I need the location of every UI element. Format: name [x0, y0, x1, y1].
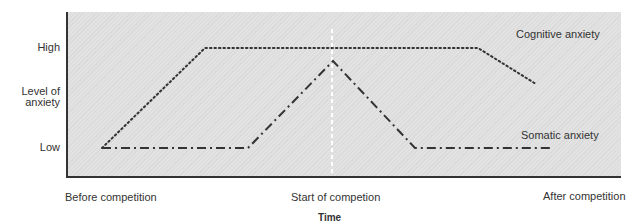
legend-cognitive-anxiety: Cognitive anxiety	[516, 28, 600, 40]
y-tick-high: High	[0, 41, 60, 53]
y-tick-low: Low	[0, 141, 60, 153]
x-tick-before: Before competition	[65, 191, 157, 203]
legend-somatic-anxiety: Somatic anxiety	[521, 129, 599, 141]
x-tick-after: After competition	[543, 190, 626, 202]
y-label-line2: anxiety	[0, 96, 60, 108]
x-tick-start: Start of competion	[291, 191, 380, 203]
somatic-anxiety-line	[102, 61, 553, 148]
cognitive-anxiety-line	[102, 48, 536, 148]
x-axis-title: Time	[318, 212, 341, 223]
y-axis	[66, 12, 68, 178]
x-axis	[66, 176, 621, 178]
